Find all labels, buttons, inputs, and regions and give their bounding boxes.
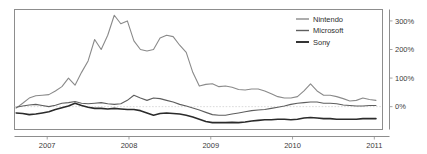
- y-tick-label: 0%: [395, 102, 406, 111]
- x-tick-label: 2007: [39, 141, 56, 150]
- y-tick-label: 200%: [395, 45, 415, 54]
- x-axis: 20072008200920102011: [15, 137, 390, 151]
- x-tick-label: 2008: [121, 141, 138, 150]
- legend-label-sony: Sony: [313, 38, 330, 47]
- x-tick-label: 2010: [284, 141, 301, 150]
- legend-label-nintendo: Nintendo: [313, 15, 343, 24]
- x-tick-label: 2009: [202, 141, 219, 150]
- x-tick-label: 2011: [366, 141, 382, 150]
- legend-label-microsoft: Microsoft: [313, 26, 344, 35]
- y-tick-label: 300%: [395, 17, 415, 26]
- y-tick-label: 100%: [395, 74, 415, 83]
- line-chart: 0%100%200%300% 20072008200920102011 Nint…: [0, 0, 427, 154]
- chart-container: 0%100%200%300% 20072008200920102011 Nint…: [0, 0, 427, 154]
- chart-legend: NintendoMicrosoftSony: [296, 15, 344, 47]
- series-line-sony: [16, 103, 376, 122]
- y-axis-ticks: 0%100%200%300%: [390, 10, 415, 130]
